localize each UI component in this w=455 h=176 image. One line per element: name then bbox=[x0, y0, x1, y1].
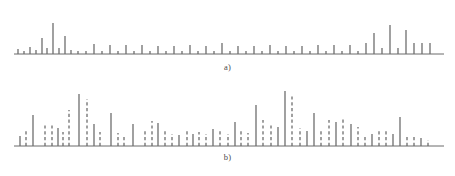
panel-b: b) bbox=[0, 88, 455, 176]
panel-a: a) bbox=[0, 0, 455, 88]
panel-a-label: a) bbox=[0, 62, 455, 72]
stem-plot-figure: a) b) bbox=[0, 0, 455, 176]
panel-a-plot bbox=[0, 0, 455, 60]
panel-b-label: b) bbox=[0, 152, 455, 162]
panel-b-plot bbox=[0, 88, 455, 152]
